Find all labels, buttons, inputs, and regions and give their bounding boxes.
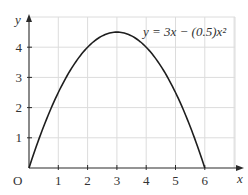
x-tick-label: 1 [55, 173, 62, 188]
y-tick-label: 3 [16, 70, 23, 85]
x-tick-label: 3 [114, 173, 121, 188]
x-tick-label: 5 [172, 173, 179, 188]
y-tick-label: 1 [16, 130, 23, 145]
y-tick-label: 4 [16, 40, 23, 55]
x-axis-label: x [236, 171, 243, 186]
equation-label: y = 3x − (0.5)x² [141, 24, 227, 39]
y-tick-label: 2 [16, 100, 23, 115]
y-axis-arrow-icon [26, 14, 32, 22]
grid [29, 17, 235, 168]
y-axis-label: y [13, 12, 21, 27]
origin-label: O [13, 173, 22, 188]
ticks: 1234561234 [16, 40, 209, 188]
x-tick-label: 4 [143, 173, 150, 188]
x-tick-label: 6 [202, 173, 209, 188]
x-tick-label: 2 [84, 173, 91, 188]
parabola-chart: 1234561234 O x y y = 3x − (0.5)x² [0, 0, 248, 195]
